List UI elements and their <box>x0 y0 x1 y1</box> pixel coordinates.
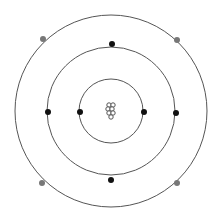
electron-dot <box>77 109 83 115</box>
atom-diagram <box>0 0 216 223</box>
nucleon-icon <box>109 115 113 119</box>
electron-dot <box>39 180 45 186</box>
electron-dot <box>174 37 180 43</box>
electron-dot <box>174 180 180 186</box>
electron-dot <box>40 36 46 42</box>
electron-dot <box>109 41 115 47</box>
nucleus <box>106 103 115 119</box>
electron-dot <box>108 177 114 183</box>
electron-dot <box>141 109 147 115</box>
electron-dot <box>173 110 179 116</box>
electron-dot <box>45 109 51 115</box>
